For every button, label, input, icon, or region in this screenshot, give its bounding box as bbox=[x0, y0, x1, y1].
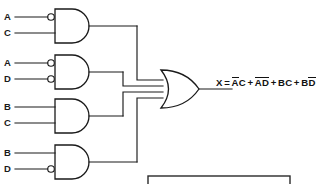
gate-1-and[interactable] bbox=[15, 9, 137, 43]
input-label-gate4-d: D bbox=[4, 164, 11, 174]
term-4: BD bbox=[301, 77, 315, 88]
gate-4-and[interactable] bbox=[15, 145, 137, 179]
term-1-second: C bbox=[239, 77, 246, 88]
input-label-gate1-c: C bbox=[4, 28, 11, 38]
wire-gate4-to-or-input-4 bbox=[137, 98, 163, 162]
term-3: BC bbox=[278, 77, 292, 88]
gate-4-input-d-inversion-bubble bbox=[48, 166, 55, 173]
wire-gate2-to-or-input-2 bbox=[123, 72, 163, 86]
input-label-gate3-b: B bbox=[4, 102, 11, 112]
or-gate[interactable] bbox=[161, 70, 232, 108]
term-1: AC bbox=[232, 77, 246, 88]
plus-sign-3: + bbox=[292, 77, 301, 88]
output-variable: X bbox=[216, 77, 223, 88]
gate-2-body bbox=[55, 55, 89, 89]
term-1-first: A bbox=[232, 77, 239, 88]
gate-1-body bbox=[55, 9, 89, 43]
wire-gate1-to-or-input-1 bbox=[137, 26, 163, 80]
input-label-gate1-a: A bbox=[4, 12, 11, 22]
circuit-canvas bbox=[0, 0, 334, 184]
gate-2-and[interactable] bbox=[15, 55, 123, 89]
gate-3-and[interactable] bbox=[15, 99, 123, 133]
interconnect-wires bbox=[123, 26, 163, 162]
plus-sign-2: + bbox=[269, 77, 278, 88]
term-2-first: A bbox=[255, 77, 262, 88]
plus-sign-1: + bbox=[246, 77, 255, 88]
caption-box bbox=[148, 176, 290, 184]
output-equation: X=AC+AD+BC+BD bbox=[216, 77, 316, 88]
term-4-second: D bbox=[308, 77, 315, 88]
gate-2-input-d-inversion-bubble bbox=[48, 76, 55, 83]
gate-4-body bbox=[55, 145, 89, 179]
gate-1-input-a-inversion-bubble bbox=[48, 14, 55, 21]
gate-3-body bbox=[55, 99, 89, 133]
input-label-gate2-d: D bbox=[4, 74, 11, 84]
equals-sign: = bbox=[223, 77, 232, 88]
wire-gate3-to-or-input-3 bbox=[123, 92, 163, 116]
term-2: AD bbox=[255, 77, 269, 88]
logic-circuit-diagram: A C A D B C B D X=AC+AD+BC+BD bbox=[0, 0, 334, 184]
input-label-gate3-c: C bbox=[4, 118, 11, 128]
input-label-gate2-a: A bbox=[4, 58, 11, 68]
or-gate-body bbox=[161, 70, 199, 108]
gate-2-input-a-inversion-bubble bbox=[48, 60, 55, 67]
term-4-first: B bbox=[301, 77, 308, 88]
input-label-gate4-b: B bbox=[4, 148, 11, 158]
